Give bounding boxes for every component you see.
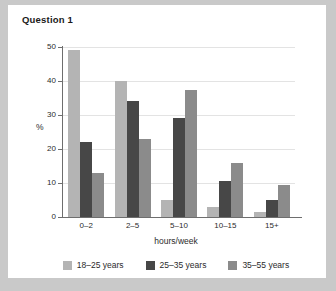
bar	[161, 200, 173, 217]
bar	[173, 118, 185, 217]
y-axis-tick	[58, 47, 63, 48]
bar	[139, 139, 151, 217]
chart-legend: 18–25 years25–35 years35–55 years	[8, 260, 336, 270]
x-axis-tick-label: 5–10	[154, 221, 204, 230]
x-axis-tick-label: 2–5	[108, 221, 158, 230]
legend-label: 35–55 years	[242, 260, 289, 270]
bar	[92, 173, 104, 217]
gridline	[63, 47, 295, 48]
legend-item: 25–35 years	[146, 260, 207, 270]
bar	[278, 185, 290, 217]
legend-item: 18–25 years	[63, 260, 124, 270]
x-axis-tick-label: 15+	[247, 221, 297, 230]
y-axis-tick	[58, 115, 63, 116]
bar	[254, 212, 266, 217]
y-axis-tick	[58, 149, 63, 150]
bar	[231, 163, 243, 217]
bar	[115, 81, 127, 217]
bar	[219, 181, 231, 217]
y-axis-tick-label: 10	[30, 178, 56, 187]
chart-card: Question 1 01020304050 % 0–22–55–1010–15…	[8, 5, 326, 278]
bar	[68, 50, 80, 217]
gridline	[63, 81, 295, 82]
x-axis-title: hours/week	[8, 236, 336, 246]
y-axis-tick	[58, 81, 63, 82]
gridline	[63, 115, 295, 116]
x-axis-tick-label: 10–15	[200, 221, 250, 230]
y-axis-tick	[58, 217, 63, 218]
y-axis-tick-label: 30	[30, 110, 56, 119]
legend-label: 25–35 years	[160, 260, 207, 270]
legend-swatch	[228, 261, 237, 270]
y-axis-line	[62, 46, 63, 218]
y-axis-tick-label: 20	[30, 144, 56, 153]
bar	[207, 207, 219, 217]
y-axis-title: %	[36, 122, 44, 132]
y-axis-tick-label: 40	[30, 76, 56, 85]
bar	[185, 90, 197, 218]
legend-label: 18–25 years	[77, 260, 124, 270]
page-title: Question 1	[22, 14, 73, 25]
legend-swatch	[63, 261, 72, 270]
bar	[266, 200, 278, 217]
x-axis-line	[62, 217, 302, 218]
y-axis-tick-label: 0	[30, 212, 56, 221]
bar	[80, 142, 92, 217]
legend-item: 35–55 years	[228, 260, 289, 270]
x-axis-tick-label: 0–2	[61, 221, 111, 230]
bar	[127, 101, 139, 217]
legend-swatch	[146, 261, 155, 270]
y-axis-tick	[58, 183, 63, 184]
y-axis-tick-label: 50	[30, 42, 56, 51]
